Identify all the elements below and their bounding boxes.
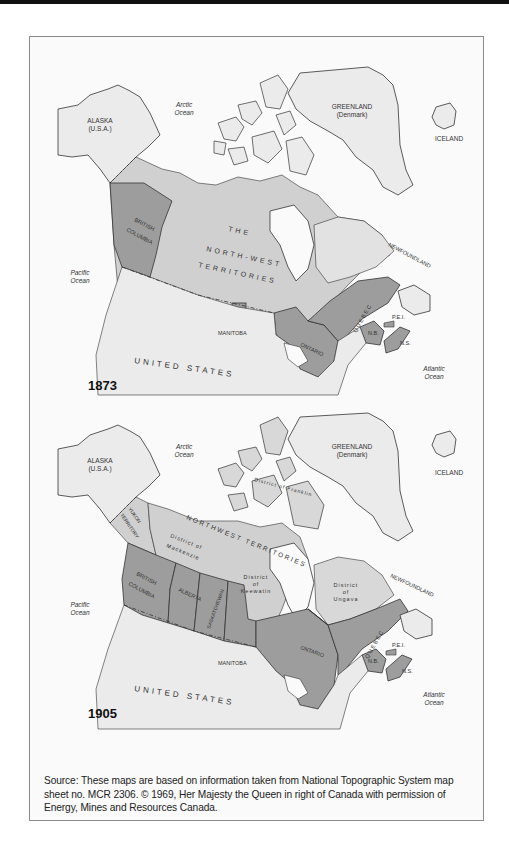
map-1873: ALASKA (U.S.A.) Arctic Ocean GREENLAND (… bbox=[38, 45, 478, 405]
label-keewatin-1: District bbox=[244, 574, 269, 580]
map-year-1873: 1873 bbox=[88, 378, 117, 393]
label-atlantic-ocean: Atlantic bbox=[422, 365, 445, 372]
label-ungava-3: Ungava bbox=[334, 596, 359, 602]
newfoundland-island bbox=[398, 285, 430, 315]
label-newfoundland: NEWFOUNDLAND bbox=[388, 242, 432, 269]
label-ns: N.S. bbox=[402, 668, 413, 674]
label-ungava-2: of bbox=[343, 589, 350, 595]
label-atlantic-ocean-2: Ocean bbox=[424, 373, 444, 380]
label-iceland: ICELAND bbox=[435, 469, 463, 476]
label-iceland: ICELAND bbox=[435, 135, 463, 142]
label-arctic-ocean: Arctic bbox=[175, 101, 193, 108]
label-greenland: GREENLAND bbox=[332, 103, 373, 110]
pei-province bbox=[384, 321, 394, 327]
label-greenland-sub: (Denmark) bbox=[337, 451, 368, 459]
label-keewatin-2: of bbox=[253, 581, 260, 587]
label-pacific-ocean: Pacific bbox=[70, 601, 90, 608]
label-atlantic-ocean: Atlantic bbox=[422, 691, 445, 698]
label-pacific-ocean-2: Ocean bbox=[70, 277, 90, 284]
newfoundland-island bbox=[400, 609, 432, 639]
label-alaska-sub: (U.S.A.) bbox=[88, 125, 111, 133]
label-pacific-ocean-2: Ocean bbox=[70, 609, 90, 616]
label-atlantic-ocean-2: Ocean bbox=[424, 699, 444, 706]
label-arctic-ocean: Arctic bbox=[175, 443, 193, 450]
label-alaska: ALASKA bbox=[87, 117, 113, 124]
label-ungava-1: District bbox=[334, 582, 359, 588]
label-greenland: GREENLAND bbox=[332, 443, 373, 450]
label-pacific-ocean: Pacific bbox=[70, 269, 90, 276]
label-newfoundland: NEWFOUNDLAND bbox=[390, 572, 435, 597]
source-caption: Source: These maps are based on informat… bbox=[44, 774, 474, 815]
top-edge-bar bbox=[0, 0, 509, 4]
saskatchewan-province bbox=[194, 573, 228, 641]
map-year-1905: 1905 bbox=[88, 706, 117, 721]
greenland-landmass bbox=[288, 67, 413, 195]
iceland-landmass bbox=[432, 431, 456, 457]
figure-frame: ALASKA (U.S.A.) Arctic Ocean GREENLAND (… bbox=[29, 36, 484, 821]
label-nb: N.B. bbox=[368, 330, 379, 336]
label-alaska: ALASKA bbox=[87, 457, 113, 464]
label-greenland-sub: (Denmark) bbox=[337, 111, 368, 119]
labrador-region bbox=[314, 217, 394, 283]
map-1905: ALASKA (U.S.A.) Arctic Ocean GREENLAND (… bbox=[38, 409, 478, 769]
label-pei: P.E.I. bbox=[392, 642, 405, 648]
label-alaska-sub: (U.S.A.) bbox=[88, 465, 111, 473]
label-arctic-ocean-2: Ocean bbox=[174, 109, 194, 116]
label-pei: P.E.I. bbox=[392, 314, 405, 320]
label-manitoba: MANITOBA bbox=[218, 660, 247, 666]
pei-province bbox=[386, 649, 396, 655]
label-keewatin-3: Keewatin bbox=[241, 588, 272, 594]
label-arctic-ocean-2: Ocean bbox=[174, 451, 194, 458]
label-ns: N.S. bbox=[400, 340, 411, 346]
label-nb: N.B. bbox=[368, 658, 379, 664]
label-manitoba: MANITOBA bbox=[218, 330, 247, 336]
iceland-landmass bbox=[432, 103, 456, 129]
